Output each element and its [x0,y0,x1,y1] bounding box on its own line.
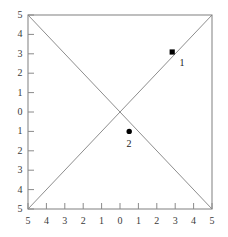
x-tick-label-neg5: 5 [21,216,35,226]
y-tick-label-4-top: 4 [13,29,27,39]
data-point-1-label: 1 [175,58,189,68]
x-tick-label-neg4: 4 [39,216,53,226]
x-tick-label-neg2: 2 [76,216,90,226]
y-tick-label-3-bot: 3 [13,165,27,175]
data-point-2-marker[interactable] [127,129,132,134]
data-point-2-label: 2 [122,139,136,149]
x-tick-label-0: 0 [113,216,127,226]
chart-figure: 5 4 3 2 1 0 1 2 3 4 5 5 4 3 2 1 0 1 2 3 … [0,0,228,237]
data-point-1-marker[interactable] [170,49,175,54]
y-tick-label-3-top: 3 [13,49,27,59]
x-tick-label-pos4: 4 [187,216,201,226]
y-tick-label-1-bot: 1 [13,126,27,136]
y-tick-label-5-bot: 5 [13,204,27,214]
x-tick-label-pos1: 1 [131,216,145,226]
x-tick-label-neg3: 3 [58,216,72,226]
plot-canvas [0,0,228,237]
y-tick-label-4-bot: 4 [13,185,27,195]
x-tick-label-pos2: 2 [150,216,164,226]
y-tick-label-2-top: 2 [13,68,27,78]
x-tick-label-neg1: 1 [95,216,109,226]
y-tick-label-5-top: 5 [13,10,27,20]
y-tick-label-1-top: 1 [13,88,27,98]
x-tick-label-pos5: 5 [205,216,219,226]
y-tick-label-0: 0 [13,107,27,117]
x-tick-label-pos3: 3 [168,216,182,226]
y-tick-label-2-bot: 2 [13,146,27,156]
